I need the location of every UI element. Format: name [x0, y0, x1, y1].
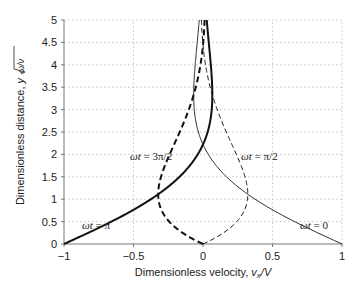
y-tick-label: 3.5 [42, 81, 57, 93]
velocity-profile-chart: 00.511.522.533.544.55 −1−0.500.51 ωt = 3… [0, 0, 362, 296]
annotation-pi-2: ωt = π/2 [241, 150, 278, 162]
y-tick-label: 0 [51, 238, 57, 250]
y-tick-label: 2 [51, 148, 57, 160]
y-tick-label: 4 [51, 59, 57, 71]
x-axis-label: Dimensionless velocity, vx/V [135, 266, 273, 280]
y-tick-labels: 00.511.522.533.544.55 [42, 14, 57, 250]
y-tick-label: 2.5 [42, 126, 57, 138]
y-tick-label: 5 [51, 14, 57, 26]
annotation-3pi-2: ωt = 3π/2 [130, 150, 172, 162]
y-tick-label: 1.5 [42, 171, 57, 183]
y-tick-label: 0.5 [42, 216, 57, 228]
annotation-pi: ωt = π [82, 219, 111, 231]
y-axis-label: Dimensionless distance, yω/ν [14, 46, 26, 205]
y-tick-label: 1 [51, 193, 57, 205]
x-tick-labels: −1−0.500.51 [58, 250, 345, 262]
series-line [64, 20, 212, 244]
y-tick-label: 4.5 [42, 36, 57, 48]
x-tick-label: −0.5 [123, 250, 145, 262]
x-tick-label: 1 [339, 250, 345, 262]
y-tick-label: 3 [51, 104, 57, 116]
series-line [194, 20, 342, 244]
svg-text:Dimensionless distance, yω/ν: Dimensionless distance, yω/ν [14, 58, 26, 205]
x-tick-label: 0.5 [265, 250, 280, 262]
annotation-0: ωt = 0 [300, 219, 329, 231]
x-tick-label: 0 [200, 250, 206, 262]
x-tick-label: −1 [58, 250, 71, 262]
